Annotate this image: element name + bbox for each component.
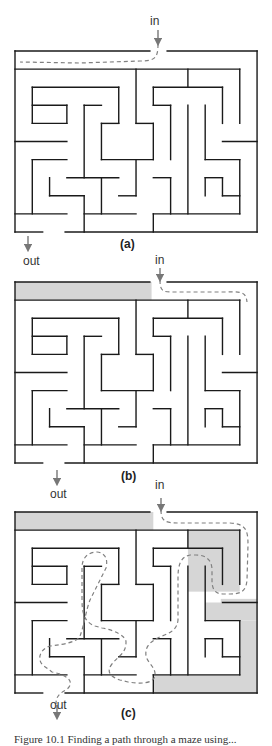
maze-panel-a (15, 30, 257, 248)
search-path-dashed (160, 280, 247, 302)
search-path-dashed (20, 44, 158, 63)
dead-end-shading (153, 675, 257, 693)
panel-label: (b) (121, 469, 136, 483)
out-label: out (50, 698, 67, 712)
dead-end-shading (15, 282, 152, 300)
panel-label: (a) (120, 237, 135, 251)
in-label: in (150, 14, 159, 28)
out-label: out (50, 487, 67, 501)
dead-end-shading (188, 530, 240, 592)
figure-caption: Figure 10.1 Finding a path through a maz… (14, 733, 236, 745)
dead-end-shading (15, 512, 153, 530)
maze-panel-b (15, 268, 257, 482)
out-label: out (23, 254, 40, 268)
maze-panel-c (15, 498, 257, 716)
panel-label: (c) (121, 706, 136, 720)
in-label: in (155, 478, 164, 492)
maze-figure (0, 0, 272, 746)
in-label: in (155, 253, 164, 267)
dead-end-shading (205, 603, 257, 621)
